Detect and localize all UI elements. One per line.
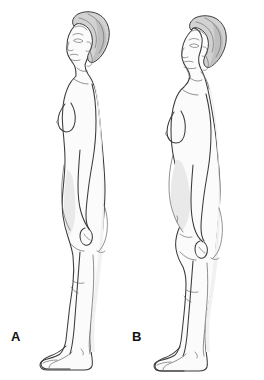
posture-comparison-figure: .ln { fill: none; stroke: #3a3a3a; strok…	[0, 0, 264, 380]
panel-label-b: B	[132, 330, 141, 343]
figure-illustration-svg: .ln { fill: none; stroke: #3a3a3a; strok…	[0, 0, 264, 380]
figure-b-body	[154, 16, 226, 371]
figure-a-body	[40, 12, 109, 370]
panel-label-a: A	[11, 330, 20, 343]
